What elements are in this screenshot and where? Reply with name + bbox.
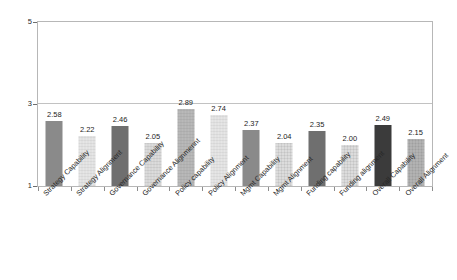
bar-value-label: 2.89 [178,99,193,107]
bar-value-label: 2.15 [408,129,423,137]
y-tick-label-1: 1 [28,182,32,190]
y-tick-label-3: 3 [28,100,32,108]
y-axis: 5 3 1 [0,0,37,190]
bar-value-label: 2.46 [113,116,128,124]
bar-value-label: 2.49 [375,115,390,123]
bar-value-label: 2.22 [80,126,95,134]
bar-value-label: 2.04 [277,133,292,141]
bar-value-label: 2.58 [47,111,62,119]
bar-value-label: 2.35 [310,121,325,129]
x-axis-labels: Strategy Capability Strategy Alignment G… [0,190,457,280]
bar-value-label: 2.37 [244,120,259,128]
y-tick-label-5: 5 [28,18,32,26]
bar-value-label: 2.00 [343,135,358,143]
bar-value-label: 2.74 [211,105,226,113]
bar-chart: 5 3 1 2.58 2.22 2.46 2.05 2.89 [0,0,457,280]
bar-group-strategy-capability: 2.58 [38,22,71,186]
